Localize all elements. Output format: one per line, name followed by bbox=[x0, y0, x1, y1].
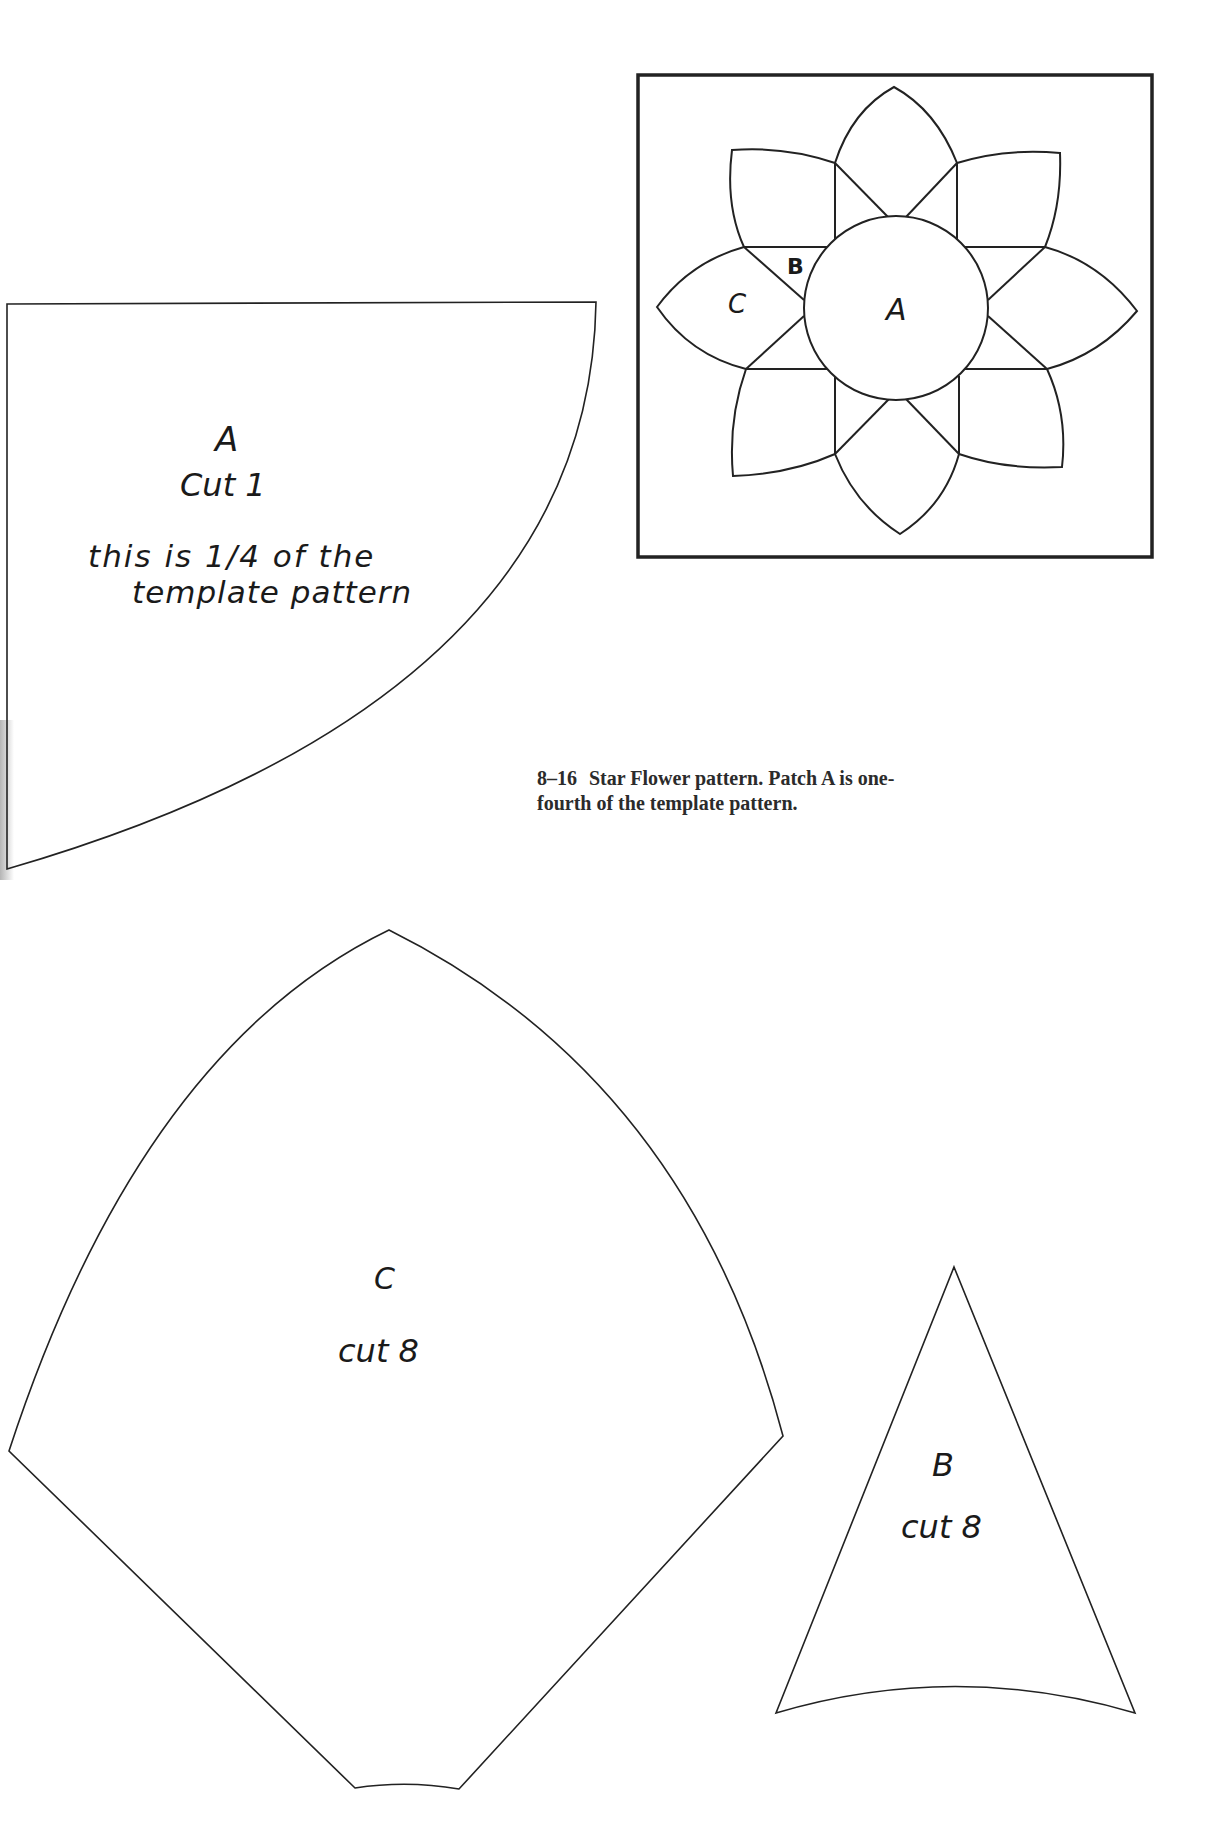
template-a-note-line2: template pattern bbox=[132, 574, 412, 610]
caption-text-1: Star Flower pattern. Patch A is one- bbox=[589, 767, 894, 789]
template-b-letter: B bbox=[932, 1446, 954, 1484]
template-a-cut: Cut 1 bbox=[180, 466, 266, 504]
block-label-c: C bbox=[728, 289, 747, 319]
block-label-b: B bbox=[787, 254, 804, 279]
figure-caption: 8–16Star Flower pattern. Patch A is one-… bbox=[537, 766, 1037, 816]
template-b-cut: cut 8 bbox=[901, 1508, 982, 1546]
figure-number: 8–16 bbox=[537, 767, 577, 789]
template-a: A Cut 1 this is 1/4 of the template patt… bbox=[7, 302, 596, 869]
pattern-page: A B C A Cut 1 this is 1/4 of the templat… bbox=[0, 0, 1230, 1835]
template-c-cut: cut 8 bbox=[338, 1332, 419, 1370]
template-a-note-line1: this is 1/4 of the bbox=[88, 538, 375, 574]
template-b-outline bbox=[776, 1267, 1135, 1713]
caption-line-2: fourth of the template pattern. bbox=[537, 791, 1037, 816]
template-a-letter: A bbox=[213, 419, 238, 459]
pattern-artwork: A B C A Cut 1 this is 1/4 of the templat… bbox=[0, 0, 1230, 1835]
caption-line-1: 8–16Star Flower pattern. Patch A is one- bbox=[537, 766, 1037, 791]
template-b: B cut 8 bbox=[776, 1267, 1135, 1713]
block-label-a: A bbox=[884, 292, 907, 327]
template-c-letter: C bbox=[374, 1261, 395, 1296]
template-c: C cut 8 bbox=[9, 930, 783, 1789]
